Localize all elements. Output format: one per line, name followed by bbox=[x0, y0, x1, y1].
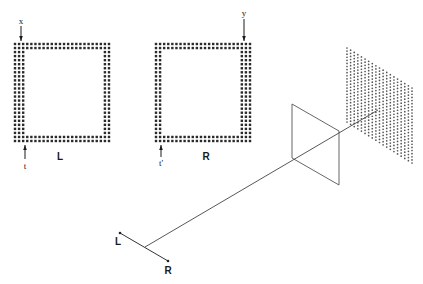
x-marker-label: x bbox=[19, 17, 24, 26]
right-eye-point bbox=[167, 260, 170, 263]
right-eye-label: R bbox=[164, 266, 171, 276]
right-square-label: R bbox=[202, 152, 209, 162]
stereogram-diagram: x t L y t' R L R bbox=[0, 0, 423, 284]
t-marker-label: t bbox=[24, 162, 27, 171]
t-prime-marker-label: t' bbox=[159, 159, 163, 168]
dotted-projection-plane bbox=[346, 47, 413, 164]
left-square-label: L bbox=[57, 152, 63, 162]
y-marker-label: y bbox=[242, 9, 247, 18]
diagram-canvas bbox=[0, 0, 423, 284]
right-dot-square bbox=[155, 43, 251, 142]
sight-line bbox=[145, 110, 378, 247]
left-dot-square bbox=[14, 43, 110, 142]
viewing-frame bbox=[292, 104, 339, 185]
left-eye-label: L bbox=[115, 237, 121, 247]
left-eye-point bbox=[119, 232, 122, 235]
